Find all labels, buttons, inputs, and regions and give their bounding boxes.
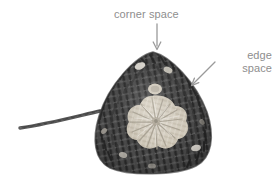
- figure-container: corner space edge space: [0, 0, 280, 183]
- corner-space-label: corner space: [114, 8, 179, 21]
- edge-space-label-line-2: space: [242, 62, 272, 75]
- edge-space-label-line-1: edge: [242, 49, 272, 62]
- crochet-triangle-photo: [0, 0, 280, 183]
- edge-space-label: edge space: [242, 49, 272, 75]
